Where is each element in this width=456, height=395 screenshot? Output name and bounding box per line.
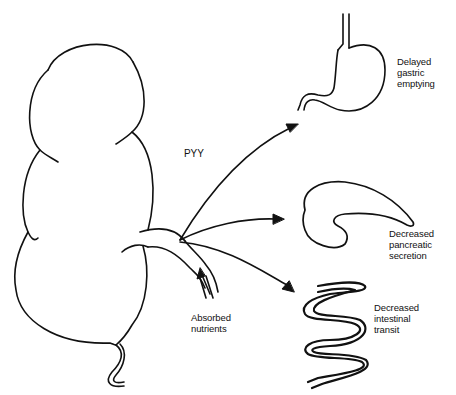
arrow-to-pancreas [180,219,275,240]
effect-pancreas-line-1: Decreased [389,228,434,239]
effect-intestine-line-3: transit [374,324,419,335]
ileum-icon [140,229,218,298]
pyy-text: PYY [184,148,204,159]
colon-icon [15,44,153,386]
effect-label-intestine: Decreased intestinal transit [374,302,419,335]
stimulus-line-1: Absorbed [191,312,231,323]
effect-intestine-line-2: intestinal [374,313,419,324]
diagram-artwork [0,0,456,395]
stomach-icon [298,14,385,111]
effect-stomach-line-2: gastric [397,67,435,78]
hormone-label: PYY [184,148,204,159]
effect-intestine-line-1: Decreased [374,302,419,313]
effect-pancreas-line-2: pancreatic [389,239,434,250]
effect-label-stomach: Delayed gastric emptying [397,56,435,89]
stimulus-line-2: nutrients [191,323,231,334]
small-intestine-icon [304,283,368,388]
stimulus-label: Absorbed nutrients [191,312,231,334]
effect-label-pancreas: Decreased pancreatic secretion [389,228,434,261]
effect-pancreas-line-3: secretion [389,250,434,261]
effect-stomach-line-1: Delayed [397,56,435,67]
effect-stomach-line-3: emptying [397,78,435,89]
arrow-to-intestine [180,242,287,285]
diagram-canvas: PYY Absorbed nutrients Delayed gastric e… [0,0,456,395]
